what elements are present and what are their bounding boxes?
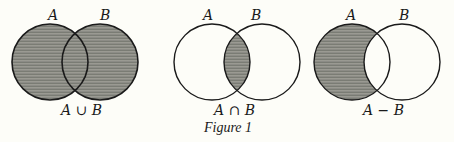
operation-label: A ∪ B bbox=[59, 102, 102, 118]
operation-label: A ∩ B bbox=[212, 102, 255, 118]
label-b: B bbox=[398, 7, 409, 23]
label-a: A bbox=[46, 7, 58, 23]
venn-difference: A B A − B bbox=[314, 7, 440, 118]
operation-label: A − B bbox=[361, 102, 404, 118]
label-a: A bbox=[344, 7, 356, 23]
figure-caption: Figure 1 bbox=[203, 120, 252, 135]
label-b: B bbox=[99, 7, 110, 23]
venn-union: A B A ∪ B bbox=[12, 7, 138, 118]
label-a: A bbox=[201, 7, 213, 23]
label-b: B bbox=[250, 7, 261, 23]
venn-figure: A B A ∪ B A B A ∩ B Figure 1 A B A − B bbox=[0, 0, 454, 142]
venn-diagrams-canvas: A B A ∪ B A B A ∩ B Figure 1 A B A − B bbox=[0, 0, 454, 142]
venn-intersection: A B A ∩ B Figure 1 bbox=[174, 7, 300, 135]
